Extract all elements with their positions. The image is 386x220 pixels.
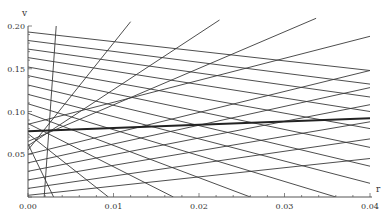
x-tick-label: 0.04 [361, 202, 379, 211]
x-tick-label: 0.02 [190, 202, 208, 211]
y-tick-label: 0.05 [7, 150, 25, 159]
chart-lines [28, 18, 370, 197]
series-ascending-4 [28, 122, 370, 180]
x-axis-label: r [376, 184, 381, 194]
series-descending-3 [28, 49, 370, 97]
axes: 0.050.100.150.20 0.000.010.020.030.04 v … [7, 8, 381, 211]
series-descending-2 [28, 41, 370, 85]
y-tick-label: 0.20 [7, 22, 25, 31]
y-tick-label: 0.10 [7, 108, 25, 117]
series-descending-8 [28, 94, 370, 183]
x-tick-label: 0.00 [19, 202, 37, 211]
x-ticks: 0.000.010.020.030.04 [19, 193, 379, 211]
y-axis-label: v [21, 8, 28, 18]
series-ascending-3 [28, 105, 370, 172]
x-tick-label: 0.01 [105, 202, 123, 211]
x-tick-label: 0.03 [276, 202, 294, 211]
series-descending-4 [28, 58, 370, 112]
series-descending-1 [28, 32, 370, 71]
chart: 0.050.100.150.20 0.000.010.020.030.04 v … [0, 0, 386, 220]
series-highlight [28, 118, 370, 131]
y-tick-label: 0.15 [7, 65, 25, 74]
